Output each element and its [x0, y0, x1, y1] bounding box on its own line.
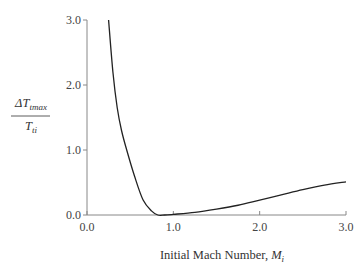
- y-tick-label: 1.0: [66, 143, 81, 157]
- y-tick-label: 0.0: [66, 208, 81, 222]
- x-tick-label: 3.0: [339, 220, 354, 234]
- y-axis-label: ΔTtmax Tti: [11, 96, 50, 135]
- svg-text:ΔTtmax: ΔTtmax: [14, 96, 47, 112]
- x-tick-label: 1.0: [166, 220, 181, 234]
- y-tick-label: 2.0: [66, 78, 81, 92]
- svg-text:Tti: Tti: [25, 119, 37, 135]
- data-line: [109, 20, 346, 215]
- x-tick-label: 0.0: [80, 220, 95, 234]
- y-tick-label: 3.0: [66, 13, 81, 27]
- axis-labels: Initial Mach Number, Mi ΔTtmax Tti: [11, 96, 285, 264]
- x-tick-label: 2.0: [252, 220, 267, 234]
- chart: 0.01.02.03.00.01.02.03.0 Initial Mach Nu…: [0, 0, 364, 271]
- x-axis-label: Initial Mach Number, Mi: [160, 248, 285, 264]
- axes: 0.01.02.03.00.01.02.03.0: [66, 13, 354, 234]
